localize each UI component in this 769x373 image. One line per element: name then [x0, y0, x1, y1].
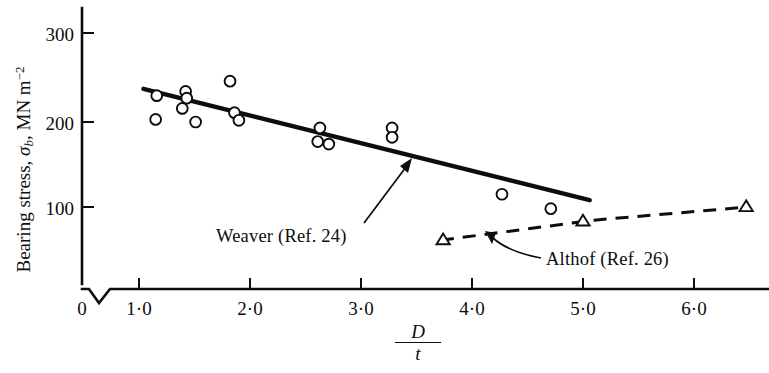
y-tick-label-300: 300 — [46, 24, 75, 45]
data-point-circle — [181, 93, 192, 104]
data-point-circle — [225, 76, 236, 87]
data-markers-triangles — [437, 200, 753, 244]
data-point-triangle — [576, 215, 589, 226]
weaver-pointer-arrow — [364, 158, 412, 223]
data-point-circle — [177, 103, 188, 114]
annotation-althof: Althof (Ref. 26) — [546, 249, 669, 270]
data-point-circle — [497, 189, 508, 200]
x-axis-line-with-break — [82, 289, 769, 303]
trend-line-weaver — [143, 89, 589, 200]
data-markers-circles — [150, 76, 556, 214]
y-axis-title-exponent: −2 — [12, 67, 27, 81]
chart-plot-area: 300 200 100 0 1·0 2·0 3·0 4·0 5·0 6·0 — [0, 0, 769, 373]
data-point-circle — [545, 203, 556, 214]
data-point-circle — [323, 139, 334, 150]
y-axis-title: Bearing stress, σb, MN m−2 — [12, 25, 37, 315]
y-axis-title-prefix: Bearing stress, — [13, 156, 34, 273]
x-tick-label-6: 6·0 — [681, 298, 706, 319]
data-point-triangle — [740, 200, 753, 211]
data-point-circle — [387, 132, 398, 143]
x-axis-title-numerator: D — [395, 322, 441, 343]
y-tick-label-200: 200 — [46, 113, 75, 134]
x-tick-label-5: 5·0 — [570, 298, 595, 319]
trend-line-althof — [441, 207, 747, 240]
x-tick-label-3: 3·0 — [348, 298, 373, 319]
althof-pointer-arrow — [485, 231, 541, 258]
x-tick-label-4: 4·0 — [459, 298, 484, 319]
x-axis-title-denominator: t — [395, 343, 441, 363]
annotation-weaver: Weaver (Ref. 24) — [216, 226, 347, 247]
y-tick-label-100: 100 — [46, 198, 75, 219]
data-point-circle — [312, 136, 323, 147]
data-point-circle — [190, 117, 201, 128]
x-tick-label-2: 2·0 — [237, 298, 262, 319]
x-tick-label-0: 0 — [77, 298, 87, 319]
data-point-circle — [315, 123, 326, 134]
bearing-stress-chart: 300 200 100 0 1·0 2·0 3·0 4·0 5·0 6·0 — [0, 0, 769, 373]
x-axis-title: D t — [395, 322, 441, 364]
x-tick-label-1: 1·0 — [126, 298, 151, 319]
data-point-circle — [150, 114, 161, 125]
data-point-circle — [151, 90, 162, 101]
data-point-circle — [234, 115, 245, 126]
sigma-subscript: b — [21, 140, 36, 147]
y-axis-title-unit: , MN m — [13, 80, 34, 140]
sigma-symbol: σ — [13, 147, 34, 156]
